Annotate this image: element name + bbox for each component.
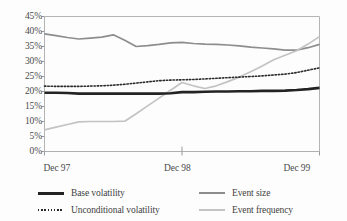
series-line-event-size [45,34,320,50]
y-axis-tick-label: 0% [0,147,42,157]
series-line-base-volatility [45,88,320,94]
chart-figure: 0%5%10%15%20%25%30%35%40%45% Dec 97Dec 9… [0,0,347,221]
legend-swatch-event-frequency [199,205,225,215]
legend-label-base-volatility: Base volatility [71,188,125,198]
legend-swatch-base-volatility [38,188,64,198]
y-axis-tick-label: 45% [0,12,42,22]
x-axis-tick-label: Dec 98 [164,163,191,173]
legend-swatch-event-size [199,188,225,198]
legend-item-base-volatility: Base volatility [38,185,125,201]
y-axis-tick-label: 25% [0,72,42,82]
legend-label-unconditional-volatility: Unconditional volatility [71,205,160,215]
y-axis-tick-label: 15% [0,102,42,112]
chart-legend: Base volatility Unconditional volatility… [0,183,347,221]
y-axis-tick-label: 40% [0,27,42,37]
legend-item-unconditional-volatility: Unconditional volatility [38,202,160,218]
y-axis-tick-label: 20% [0,87,42,97]
legend-label-event-frequency: Event frequency [232,205,293,215]
y-axis-tick-label: 35% [0,42,42,52]
legend-swatch-unconditional-volatility [38,205,64,215]
legend-label-event-size: Event size [232,188,270,198]
y-axis-tick-label: 10% [0,117,42,127]
x-axis-tick-label: Dec 97 [44,163,71,173]
legend-item-event-size: Event size [199,185,270,201]
y-axis-tick-label: 5% [0,132,42,142]
y-axis-tick-label: 30% [0,57,42,67]
series-line-event-frequency [45,37,320,130]
x-axis-tick-label: Dec 99 [284,163,311,173]
series-line-unconditional-volatility [45,68,320,87]
legend-item-event-frequency: Event frequency [199,202,293,218]
